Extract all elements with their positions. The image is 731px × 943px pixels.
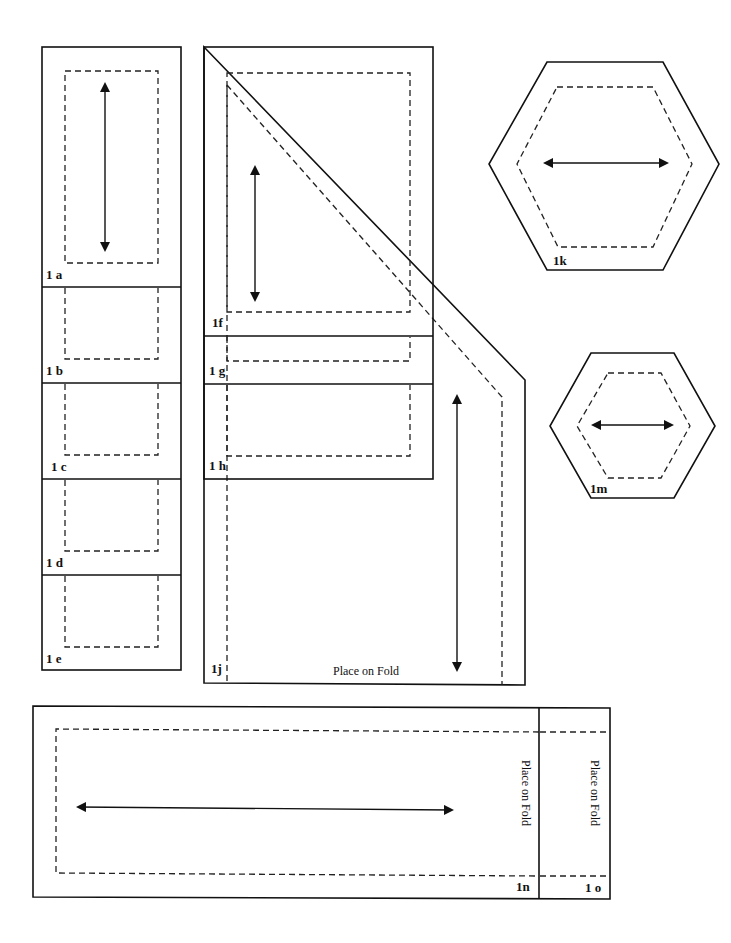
cut-line bbox=[204, 47, 525, 685]
seam-line bbox=[65, 480, 158, 551]
piece-label: 1 c bbox=[51, 459, 67, 474]
seam-line bbox=[65, 288, 158, 359]
piece-label: 1n bbox=[516, 879, 531, 894]
piece-1m: 1m bbox=[550, 353, 715, 498]
piece-1n: Place on Fold 1n bbox=[56, 729, 539, 894]
seam-line bbox=[65, 71, 158, 263]
piece-label: 1 g bbox=[209, 363, 226, 378]
piece-1a: 1 a bbox=[46, 71, 158, 282]
piece-label: 1 b bbox=[46, 363, 63, 378]
seam-line bbox=[227, 337, 410, 361]
seam-line bbox=[65, 576, 158, 647]
seam-line bbox=[65, 384, 158, 455]
left-column-outline bbox=[42, 47, 181, 670]
seam-line bbox=[56, 729, 539, 876]
piece-1d: 1 d bbox=[46, 480, 158, 570]
seam-line bbox=[517, 87, 692, 247]
piece-group-fgh: 1f 1 g 1 h bbox=[204, 47, 433, 479]
cut-line bbox=[489, 62, 719, 270]
piece-label: 1m bbox=[590, 481, 608, 496]
piece-1b: 1 b bbox=[46, 288, 158, 378]
piece-label: 1j bbox=[211, 661, 222, 676]
pattern-sheet: 1 a 1 b 1 c 1 d 1 e 1j Place on Fold bbox=[0, 0, 731, 943]
piece-1g: 1 g bbox=[209, 337, 410, 378]
piece-label: 1f bbox=[212, 315, 224, 330]
seam-line bbox=[227, 385, 410, 456]
piece-label: 1 a bbox=[46, 267, 63, 282]
piece-1o: Place on Fold 1 o bbox=[540, 732, 610, 895]
piece-label: 1 o bbox=[585, 880, 601, 895]
grain-arrow-icon bbox=[78, 807, 452, 810]
piece-label: 1k bbox=[553, 253, 568, 268]
piece-label: 1 d bbox=[46, 555, 64, 570]
piece-1c: 1 c bbox=[51, 384, 158, 474]
seam-line-diagonal bbox=[227, 85, 502, 685]
piece-column-left: 1 a 1 b 1 c 1 d 1 e bbox=[42, 47, 181, 670]
piece-1f: 1f bbox=[212, 73, 410, 330]
fold-text: Place on Fold bbox=[333, 664, 399, 678]
piece-1e: 1 e bbox=[46, 576, 158, 666]
piece-label: 1 e bbox=[46, 651, 62, 666]
fgh-outline bbox=[204, 47, 433, 479]
piece-label: 1 h bbox=[209, 458, 227, 473]
fold-text: Place on Fold bbox=[588, 760, 602, 826]
piece-1k: 1k bbox=[489, 62, 719, 270]
piece-1j: 1j Place on Fold bbox=[204, 47, 525, 685]
piece-1h: 1 h bbox=[209, 385, 410, 473]
fold-text: Place on Fold bbox=[519, 760, 533, 826]
piece-group-no: Place on Fold 1n Place on Fold 1 o bbox=[33, 706, 610, 899]
